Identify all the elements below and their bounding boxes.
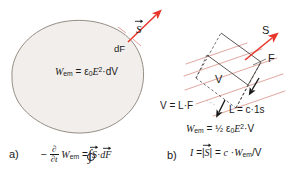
panel-a-theorem-w-sub: em	[70, 153, 79, 160]
panel-a-poynting-theorem: − ∂ ∂t Wem =∫S·dF	[41, 145, 111, 165]
panel-a-theorem-w: W	[61, 149, 69, 160]
panel-b-volume-label: V	[215, 74, 222, 85]
panel-b-intensity-bar-close: |	[210, 147, 213, 158]
panel-a-partial-fraction: ∂ ∂t	[50, 145, 59, 165]
panel-b-energy-w-sub: em	[194, 127, 203, 134]
panel-b-intensity-w-sub: em	[243, 151, 252, 158]
panel-b-intensity-i: I	[190, 147, 193, 158]
panel-b-intensity-c: c	[224, 147, 228, 158]
panel-b-intensity-over-v: /V	[252, 147, 261, 158]
panel-a-theorem-df-vector: dF	[100, 150, 111, 160]
panel-a-partial-num: ∂	[50, 145, 59, 154]
panel-b-length-equation: L = c·1s	[229, 105, 264, 115]
panel-b-intensity-w: W	[234, 147, 242, 158]
panel-a-letter: a)	[9, 149, 19, 160]
panel-b-area-label: F	[268, 53, 275, 64]
panel-a-df-label: dF	[114, 44, 125, 54]
panel-a-s-vector-text: S	[136, 23, 142, 35]
panel-a-partial-den: ∂t	[50, 154, 59, 164]
panel-b-energy-eq-sign: =	[207, 123, 213, 134]
panel-a-energy-w-sub: em	[63, 70, 72, 77]
panel-a-energy-equation: Wem = ε0E2·dV	[55, 67, 118, 78]
panel-b-intensity-s-text: S	[205, 147, 210, 158]
panel-b-energy-equation: Wem = ½ ε0E2·V	[186, 124, 254, 135]
panel-a-energy-eq-sign: =	[76, 66, 82, 77]
panel-a-poynting-arrow	[128, 15, 156, 42]
panel-a-s-vector-label: S	[136, 24, 142, 35]
panel-a-energy-dv: ·dV	[102, 66, 118, 77]
figure-root: S dF Wem = ε0E2·dV a) − ∂ ∂t Wem =∫S·dF …	[0, 0, 296, 174]
panel-b-intensity-s-vector: S	[205, 148, 210, 158]
panel-b-s-vector-label: S	[262, 25, 269, 36]
panel-a-theorem-s-vector: S	[92, 150, 97, 160]
panel-b-volume-equation: V = L·F	[160, 101, 193, 111]
panel-b-intensity-eq2: =	[215, 147, 221, 158]
panel-a-theorem-s-text: S	[92, 149, 97, 160]
panel-a-theorem-minus: −	[41, 149, 47, 160]
panel-b-energy-half: ½	[215, 123, 223, 134]
panel-b-letter: b)	[167, 150, 177, 161]
panel-b-volume-leader-line	[206, 100, 215, 105]
panel-b-energy-v: ·V	[244, 123, 254, 134]
panel-b-intensity-equation: I =|S| = c ·Wem/V	[190, 148, 261, 159]
panel-a-theorem-df-text: dF	[100, 149, 111, 160]
